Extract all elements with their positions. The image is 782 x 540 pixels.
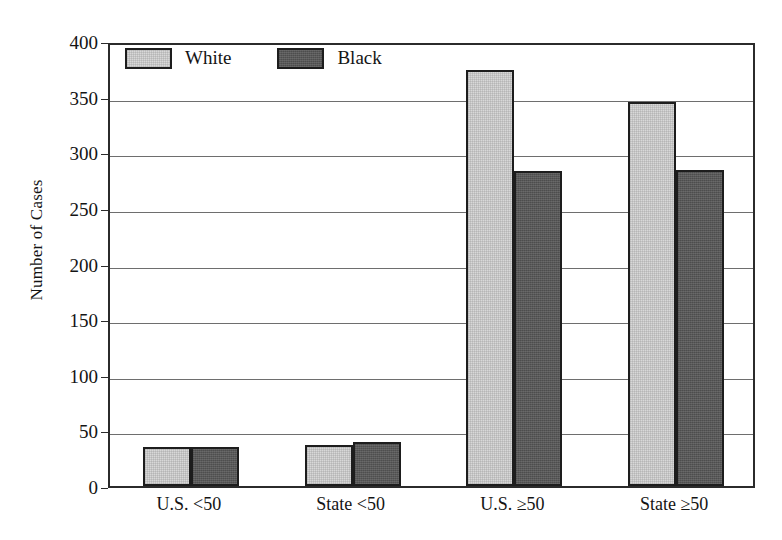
y-axis-tick-mark	[101, 43, 108, 44]
y-axis-tick-label: 150	[52, 311, 98, 330]
y-axis-tick-label: 200	[52, 256, 98, 275]
y-axis-tick-mark	[101, 432, 108, 433]
bar-group	[305, 45, 401, 486]
y-axis-tick-labels: 050100150200250300350400	[52, 0, 98, 540]
y-axis-tick-label: 50	[52, 422, 98, 441]
x-axis-tick-label: U.S. <50	[108, 494, 270, 515]
y-axis-tick-label: 300	[52, 144, 98, 163]
legend-label: White	[185, 47, 231, 69]
y-axis-tick-mark	[101, 377, 108, 378]
bar-group	[466, 45, 562, 486]
y-axis-tick-mark	[101, 266, 108, 267]
bar[interactable]	[676, 170, 724, 486]
y-axis-tick-mark	[101, 488, 108, 489]
x-axis-tick-label: U.S. ≥50	[432, 494, 594, 515]
y-axis-tick-mark	[101, 99, 108, 100]
y-axis-tick-label: 0	[52, 478, 98, 497]
y-axis-tick-mark	[101, 154, 108, 155]
legend-swatch-icon	[277, 48, 324, 69]
bar[interactable]	[305, 445, 353, 486]
bar-group	[628, 45, 724, 486]
bar[interactable]	[628, 102, 676, 486]
y-axis-tick-label: 100	[52, 367, 98, 386]
legend-entry[interactable]: White	[125, 47, 231, 69]
y-axis-tick-mark	[101, 210, 108, 211]
x-axis-tick-label: State <50	[270, 494, 432, 515]
legend-label: Black	[337, 47, 381, 69]
bar[interactable]	[466, 70, 514, 486]
chart-legend: WhiteBlack	[125, 47, 382, 69]
bar[interactable]	[143, 447, 191, 486]
bar-group	[143, 45, 239, 486]
y-axis-tick-label: 350	[52, 89, 98, 108]
bar[interactable]	[191, 447, 239, 486]
bar-chart: Number of Cases 050100150200250300350400…	[0, 0, 782, 540]
y-axis-tick-label: 250	[52, 200, 98, 219]
legend-entry[interactable]: Black	[277, 47, 381, 69]
x-axis-tick-labels: U.S. <50State <50U.S. ≥50State ≥50	[108, 494, 755, 524]
bar[interactable]	[353, 442, 401, 487]
y-axis-tick-mark	[101, 321, 108, 322]
legend-swatch-icon	[125, 48, 172, 69]
plot-area	[108, 43, 755, 488]
y-axis-tick-label: 400	[52, 33, 98, 52]
x-axis-tick-label: State ≥50	[593, 494, 755, 515]
y-axis-title: Number of Cases	[27, 140, 47, 340]
bar[interactable]	[514, 171, 562, 486]
